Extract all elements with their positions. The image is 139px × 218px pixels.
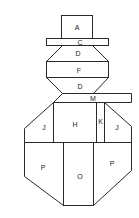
label-body-right-top: J xyxy=(115,124,119,131)
label-hat-brim: C xyxy=(77,39,82,46)
label-body-left-bottom: P xyxy=(41,164,46,171)
piece-hat-top: A xyxy=(62,16,93,39)
piece-head-middle: F xyxy=(47,62,109,78)
piece-head-lower: D xyxy=(47,78,109,94)
piece-body-left-bottom: P xyxy=(25,143,64,206)
piece-head-upper: D xyxy=(47,46,109,62)
label-scarf: M xyxy=(90,95,96,102)
label-body-center-bottom: O xyxy=(77,173,83,180)
snowman-diagram: A C D F D M J H K J xyxy=(0,0,139,218)
label-head-middle: F xyxy=(77,67,81,74)
piece-body-left-top: J xyxy=(25,103,54,143)
piece-body-strip: K xyxy=(97,103,105,143)
label-body-right-bottom: P xyxy=(110,160,115,167)
piece-body-center-bottom: O xyxy=(64,143,94,206)
label-body-left-top: J xyxy=(42,124,46,131)
piece-body-right-bottom: P xyxy=(94,143,132,206)
label-body-center-top: H xyxy=(72,121,77,128)
label-body-strip: K xyxy=(98,118,103,125)
piece-body-right-top: J xyxy=(105,103,132,143)
piece-body-center-top: H xyxy=(54,103,97,143)
piece-scarf: M xyxy=(54,94,132,103)
label-head-lower: D xyxy=(77,83,82,90)
piece-hat-brim: C xyxy=(47,39,109,47)
label-hat-top: A xyxy=(75,24,80,31)
label-head-upper: D xyxy=(75,50,80,57)
